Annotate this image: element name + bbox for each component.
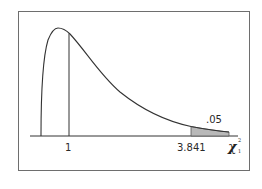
x-tick-label-1: 1 <box>65 143 71 153</box>
tail-area-label: .05 <box>206 115 222 125</box>
x-tick-label-critical: 3.841 <box>177 143 206 153</box>
axis-label-superscript: 2 <box>238 138 241 143</box>
axis-label-subscript: 1 <box>238 149 241 154</box>
x-axis-label: χ21 <box>228 140 237 153</box>
chi-square-plot <box>0 0 262 189</box>
chi-symbol: χ <box>228 139 237 154</box>
